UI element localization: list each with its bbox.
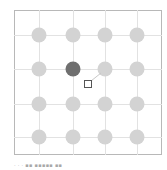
grid-node[interactable]: [66, 28, 81, 43]
grid-node[interactable]: [32, 28, 47, 43]
grid-node[interactable]: [98, 28, 113, 43]
caption-text: · · · ▪▪ ▪▪▪▪▪ ▪▪: [14, 162, 62, 168]
grid-node[interactable]: [66, 97, 81, 112]
grid-node[interactable]: [130, 97, 145, 112]
grid-node[interactable]: [98, 97, 113, 112]
grid-node[interactable]: [98, 130, 113, 145]
grid-node[interactable]: [130, 130, 145, 145]
grid-node[interactable]: [130, 62, 145, 77]
grid-node[interactable]: [66, 130, 81, 145]
grid-node[interactable]: [130, 28, 145, 43]
grid-node[interactable]: [32, 130, 47, 145]
grid-node-selected[interactable]: [66, 62, 81, 77]
cursor-square[interactable]: [84, 80, 92, 88]
grid-node[interactable]: [98, 62, 113, 77]
grid-node[interactable]: [32, 62, 47, 77]
grid-node[interactable]: [32, 97, 47, 112]
